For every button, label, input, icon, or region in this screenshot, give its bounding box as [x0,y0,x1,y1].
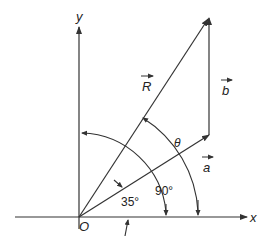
origin-label: O [79,220,89,233]
vector-b-label: b [222,84,229,97]
angle-90-label: 90° [155,185,173,197]
diagram-canvas [0,0,263,246]
vector-a [79,135,209,217]
arc-35-arrow-x [125,220,128,236]
x-axis-label: x [250,211,257,224]
vector-a-label: a [203,161,210,174]
arc-35-arrow-a [114,180,122,187]
angle-35-label: 35° [121,196,139,208]
angle-theta-label: θ [174,137,181,149]
vector-R-label: R [142,80,151,93]
vector-addition-diagram: y x O R b a θ 90° 35° [0,0,263,246]
y-axis-label: y [76,10,83,23]
